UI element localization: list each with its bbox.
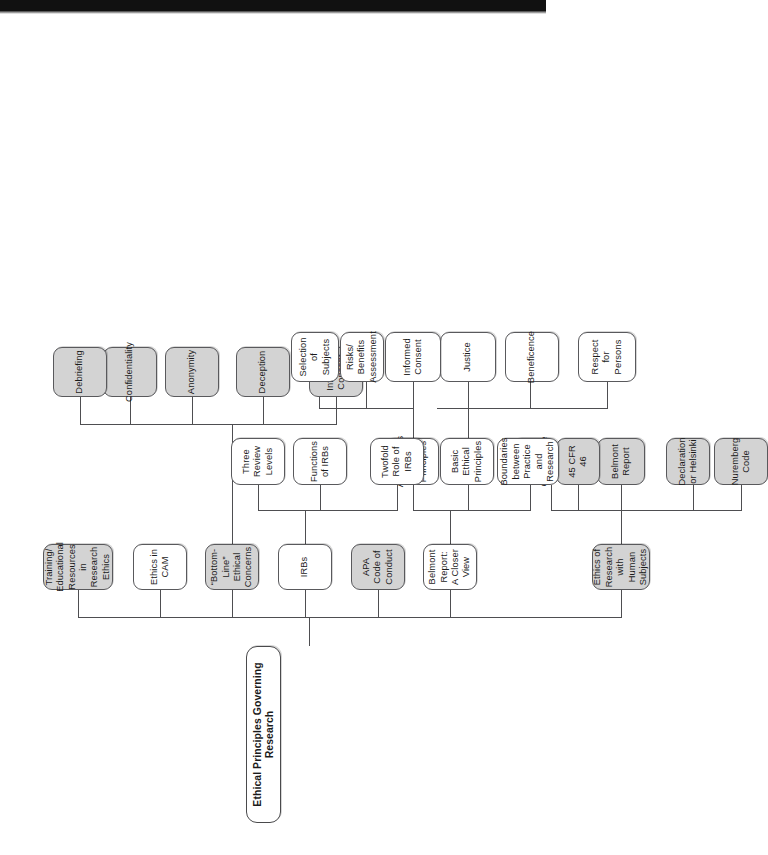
- node-label: Respect for Persons: [590, 336, 624, 378]
- node-45-cfr-46[interactable]: 45 CFR 46: [556, 438, 600, 485]
- connector-to-belmont-closer-view: [450, 590, 451, 618]
- connector-basic-to-beneficence: [530, 382, 531, 409]
- connector-belmont-to-applications: [413, 485, 414, 511]
- node-label: Basic Ethical Principles: [450, 441, 484, 482]
- node-label: Informed Consent: [402, 336, 425, 378]
- scan-artifact-bar-fade: [0, 11, 546, 14]
- node-label: Beneficence: [526, 331, 537, 383]
- connector-irbs-to-functions: [320, 485, 321, 511]
- connector-ehs-to-cfr46: [578, 485, 579, 511]
- node-label: Ethics in CAM: [149, 548, 172, 586]
- node-label: Belmont Report: [610, 442, 633, 481]
- node-justice[interactable]: Justice: [440, 332, 496, 382]
- node-label: Deception: [257, 351, 268, 394]
- connector-irbs-to-twofold: [397, 485, 398, 511]
- connector-basic-to-justice: [468, 382, 469, 409]
- connector-bl-to-anonymity: [192, 397, 193, 425]
- connector-ehs-spine: [551, 510, 741, 511]
- node-bottom-line-ethical-concerns[interactable]: “Bottom-Line” Ethical Concerns: [205, 544, 259, 590]
- node-declaration-or-helsinki[interactable]: Declaration or Helsinki: [666, 438, 710, 485]
- connector-belmont-stub: [450, 511, 451, 544]
- node-label: Debriefing: [74, 350, 85, 393]
- node-boundaries-between-practice-and-research[interactable]: Boundaries between Practice and Research: [497, 438, 559, 485]
- node-nuremberg-code[interactable]: Nuremberg Code: [714, 438, 768, 485]
- node-ethics-in-cam[interactable]: Ethics in CAM: [133, 544, 187, 590]
- connector-irbs-spine: [258, 510, 397, 511]
- connector-ehs-to-belmont-report: [621, 485, 622, 511]
- connector-apps-stub: [413, 409, 414, 438]
- node-training-educational-resources-in-research-ethics[interactable]: Training/ Educational Resources in Resea…: [43, 544, 113, 590]
- node-apa-code-of-conduct[interactable]: APA Code of Conduct: [351, 544, 405, 590]
- connector-ehs-stub: [621, 511, 622, 544]
- node-label: APA Code of Conduct: [361, 548, 395, 586]
- node-risks-benefits-assessment[interactable]: Risks/ Benefits Assessment: [340, 332, 384, 382]
- node-label: Training/ Educational Resources in Resea…: [44, 542, 112, 592]
- connector-ehs-to-helsinki: [693, 485, 694, 511]
- node-label: Selection of Subjects: [298, 336, 332, 378]
- node-label: Justice: [462, 342, 473, 372]
- node-label: IRBs: [299, 557, 310, 578]
- node-label: Declaration or Helsinki: [677, 437, 700, 485]
- connector-to-irbs: [305, 590, 306, 618]
- connector-to-ethics-human-subjects: [621, 590, 622, 618]
- node-belmont-report-a-closer-view[interactable]: Belmont Report: A Closer View: [423, 544, 477, 590]
- connector-to-training-resources: [78, 590, 79, 618]
- node-ethics-of-research-with-human-subjects[interactable]: Ethics of Research with Human Subjects: [592, 544, 650, 590]
- node-label: Risks/ Benefits Assessment: [345, 331, 379, 383]
- connector-to-ethics-cam: [160, 590, 161, 618]
- connector-root-stub: [309, 618, 310, 646]
- connector-belmont-to-basic-principles: [468, 485, 469, 511]
- connector-ehs-to-assurance: [551, 485, 552, 511]
- connector-to-bottom-line: [232, 590, 233, 618]
- connector-to-apa-code: [378, 590, 379, 618]
- node-belmont-report[interactable]: Belmont Report: [597, 438, 645, 485]
- node-label: Nuremberg Code: [730, 438, 753, 485]
- node-label: Twofold Role of IRBs: [380, 442, 414, 481]
- connector-bl-to-debriefing: [80, 397, 81, 425]
- connector-ehs-to-nuremberg: [741, 485, 742, 511]
- node-irbs[interactable]: IRBs: [278, 544, 332, 590]
- node-selection-of-subjects[interactable]: Selection of Subjects: [291, 332, 339, 382]
- connector-basic-to-respect: [607, 382, 608, 409]
- connector-basic-spine: [437, 408, 607, 409]
- node-label: Belmont Report: A Closer View: [427, 548, 473, 586]
- node-label: Three Review Levels: [241, 442, 275, 481]
- node-respect-for-persons[interactable]: Respect for Persons: [578, 332, 636, 382]
- node-confidentiality[interactable]: Confidentiality: [103, 347, 157, 397]
- connector-irbs-stub: [305, 511, 306, 544]
- node-label: Boundaries between Practice and Research: [499, 437, 556, 485]
- node-anonymity[interactable]: Anonymity: [165, 347, 219, 397]
- connector-bl-to-informed-consent: [336, 397, 337, 425]
- node-debriefing[interactable]: Debriefing: [53, 347, 107, 397]
- node-three-review-levels[interactable]: Three Review Levels: [231, 438, 285, 485]
- connector-apps-to-risks-benefits: [366, 382, 367, 409]
- node-label: Anonymity: [186, 350, 197, 394]
- connector-belmont-to-boundaries: [530, 485, 531, 511]
- connector-belmont-spine: [413, 510, 530, 511]
- node-basic-ethical-principles[interactable]: Basic Ethical Principles: [440, 438, 494, 485]
- node-label: “Bottom-Line” Ethical Concerns: [209, 547, 255, 588]
- node-label: Confidentiality: [124, 342, 135, 402]
- connector-irbs-to-three-review: [258, 485, 259, 511]
- node-informed-consent-application[interactable]: Informed Consent: [385, 332, 441, 382]
- node-deception[interactable]: Deception: [236, 347, 290, 397]
- node-root-ethical-principles-governing-research[interactable]: Ethical Principles Governing Research: [246, 646, 281, 823]
- connector-bl-to-deception: [263, 397, 264, 425]
- node-label: Ethical Principles Governing Research: [252, 650, 275, 819]
- connector-bottomline-spine: [80, 424, 336, 425]
- connector-apps-to-informed-consent: [413, 382, 414, 409]
- node-label: Functions of IRBs: [309, 441, 332, 482]
- node-beneficence[interactable]: Beneficence: [505, 332, 559, 382]
- node-functions-of-irbs[interactable]: Functions of IRBs: [293, 438, 347, 485]
- node-twofold-role-of-irbs[interactable]: Twofold Role of IRBs: [370, 438, 424, 485]
- scan-artifact-bar: [0, 0, 546, 11]
- node-label: Ethics of Research with Human Subjects: [592, 547, 649, 588]
- connector-basic-stub: [468, 409, 469, 438]
- node-label: 45 CFR 46: [567, 442, 590, 481]
